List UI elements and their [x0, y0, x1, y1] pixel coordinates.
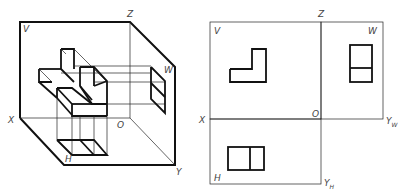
projection-diagram: V Z W X O H Y V Z W X O YW H YH [0, 0, 403, 194]
label-o-left: O [117, 120, 124, 130]
label-h-right: H [214, 173, 221, 183]
label-x-right: X [198, 115, 206, 125]
y-axis-line [130, 118, 175, 165]
label-z-left: Z [126, 9, 134, 19]
top-view-outline [228, 147, 264, 170]
unfolded-views: V Z W X O YW H YH [198, 9, 399, 190]
label-yh-right: YH [324, 178, 335, 190]
h-plane-projection [57, 140, 107, 155]
label-v-right: V [214, 26, 221, 36]
label-y-left: Y [176, 167, 183, 177]
label-w-left: W [164, 65, 174, 75]
side-view-outline [350, 45, 372, 82]
w-plane-projection [151, 67, 165, 113]
label-yw-right: YW [386, 116, 399, 128]
h-plane-region [210, 119, 321, 184]
label-o-right: O [312, 109, 319, 119]
label-w-right: W [368, 26, 378, 36]
w-plane-region [321, 22, 383, 119]
label-x-left: X [7, 115, 15, 125]
front-view-outline [230, 49, 266, 82]
pictorial-box: V Z W X O H Y [7, 9, 183, 177]
label-z-right: Z [317, 9, 325, 19]
label-v-left: V [23, 24, 30, 34]
label-h-left: H [65, 154, 72, 164]
